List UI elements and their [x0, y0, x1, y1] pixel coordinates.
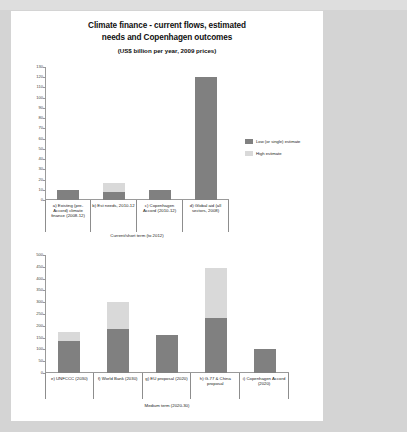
category-label: c) Copenhagen Accord (2010-12)	[137, 200, 183, 232]
title-block: Climate finance - current flows, estimat…	[11, 11, 323, 55]
bar-segment-low-estimate	[58, 341, 80, 373]
bar-f	[107, 302, 129, 373]
y-axis-tick-mark	[43, 361, 46, 362]
bar-b	[103, 183, 125, 200]
chart-legend: Low (or single) estimateHigh estimate	[245, 139, 300, 163]
legend-swatch	[245, 151, 253, 156]
y-axis-tick-mark	[43, 279, 46, 280]
y-axis-tick-mark	[43, 159, 46, 160]
chart-medium-term: 050100150200250300350400450500 e) UNFCCC…	[45, 255, 289, 373]
category-label: a) Existing (pre-Accord) climate finance…	[45, 200, 91, 232]
category-labels-top: a) Existing (pre-Accord) climate finance…	[45, 200, 229, 232]
y-axis-tick-mark	[43, 108, 46, 109]
y-axis-tick-mark	[43, 149, 46, 150]
y-axis-tick-mark	[43, 77, 46, 78]
bar-g	[156, 335, 178, 373]
bar-segment-low-estimate	[107, 329, 129, 373]
y-axis-tick-mark	[43, 290, 46, 291]
y-axis-line	[45, 255, 46, 373]
category-label: g) EU proposal (2020)	[143, 373, 192, 399]
y-axis-tick-mark	[43, 128, 46, 129]
y-axis-tick-mark	[43, 190, 46, 191]
y-axis-tick-mark	[43, 255, 46, 256]
legend-item: High estimate	[245, 151, 300, 156]
bar-segment-low-estimate	[254, 349, 276, 373]
bar-segment-low-estimate	[156, 335, 178, 373]
y-axis-line	[45, 67, 46, 200]
y-axis-tick-mark	[43, 349, 46, 350]
bar-segment-high-estimate	[103, 183, 125, 192]
category-label: h) G-77 & China proposal	[191, 373, 240, 399]
bar-segment-low-estimate	[149, 190, 171, 200]
bar-segment-high-estimate	[107, 302, 129, 329]
y-axis-tick-mark	[43, 338, 46, 339]
y-axis-tick-mark	[43, 67, 46, 68]
bar-segment-low-estimate	[205, 318, 227, 373]
y-axis-tick-mark	[43, 267, 46, 268]
bar-h	[205, 268, 227, 373]
chart-current-short-term: 0102030405060708090100110120130 a) Exist…	[45, 67, 229, 200]
bar-segment-low-estimate	[57, 190, 79, 200]
plot-area-top: 0102030405060708090100110120130	[45, 67, 229, 200]
plot-area-bottom: 050100150200250300350400450500	[45, 255, 289, 373]
y-axis-tick-mark	[43, 87, 46, 88]
category-labels-bottom: e) UNFCCC (2030)f) World Bank (2030)g) E…	[45, 373, 289, 399]
bar-i	[254, 349, 276, 373]
chart-title-line-2: needs and Copenhagen outcomes	[11, 32, 323, 44]
y-axis-tick-mark	[43, 180, 46, 181]
category-label: d) Global aid (all sectors, 2008)	[183, 200, 229, 232]
bar-segment-high-estimate	[205, 268, 227, 318]
bar-c	[149, 190, 171, 200]
y-axis-tick-mark	[43, 302, 46, 303]
category-label: b) Est needs, 2010-12	[91, 200, 137, 232]
chart-title-line-1: Climate finance - current flows, estimat…	[11, 20, 323, 32]
legend-label: High estimate	[256, 151, 282, 156]
axis-caption-top: Current/short term (to 2012)	[45, 233, 229, 238]
chart-subtitle: (US$ billion per year, 2009 prices)	[11, 47, 323, 55]
y-axis-tick-mark	[43, 139, 46, 140]
y-axis-tick-mark	[43, 314, 46, 315]
legend-swatch	[245, 139, 253, 144]
y-axis-tick-mark	[43, 118, 46, 119]
axis-caption-bottom: Medium term (2020-30)	[45, 403, 289, 408]
y-axis-tick-mark	[43, 169, 46, 170]
y-axis-tick-mark	[43, 326, 46, 327]
slide-canvas: Climate finance - current flows, estimat…	[11, 11, 323, 421]
bar-a	[57, 190, 79, 200]
bar-e	[58, 332, 80, 373]
legend-item: Low (or single) estimate	[245, 139, 300, 144]
legend-label: Low (or single) estimate	[256, 139, 300, 144]
y-axis-tick-mark	[43, 98, 46, 99]
category-label: i) Copenhagen Accord (2020)	[240, 373, 289, 399]
category-label: f) World Bank (2030)	[94, 373, 143, 399]
bar-segment-high-estimate	[58, 332, 80, 341]
bar-d	[195, 77, 217, 200]
bar-segment-low-estimate	[195, 77, 217, 200]
category-label: e) UNFCCC (2030)	[45, 373, 94, 399]
bar-segment-low-estimate	[103, 192, 125, 200]
